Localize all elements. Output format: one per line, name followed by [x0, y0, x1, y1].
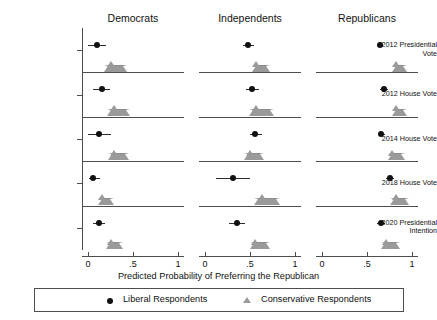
row-label-1: 2012 House Vote [359, 90, 437, 99]
x-axis-tick [250, 252, 251, 256]
y-axis-tick-2 [77, 139, 82, 140]
marker-triangle-conservative [258, 194, 266, 200]
legend-label-liberal: Liberal Respondents [123, 294, 207, 304]
marker-triangle-conservative [251, 239, 259, 245]
marker-circle-liberal [94, 42, 100, 48]
forest-plot-figure: DemocratsIndependentsRepublicans2012 Pre… [0, 0, 437, 320]
marker-circle-liberal [387, 175, 393, 181]
panel-title-democrats: Democrats [68, 12, 198, 24]
panel-title-republicans: Republicans [302, 12, 432, 24]
marker-circle-liberal [96, 220, 102, 226]
marker-circle-liberal [90, 175, 96, 181]
x-tick-label: 1 [285, 259, 305, 269]
row-label-3: 2018 House Vote [359, 179, 437, 188]
marker-triangle-conservative [382, 239, 390, 245]
x-axis-tick [178, 252, 179, 256]
row-separator [316, 206, 418, 207]
marker-triangle-conservative [107, 239, 115, 245]
y-axis-tick-1 [77, 95, 82, 96]
marker-triangle-conservative [392, 194, 400, 200]
x-axis-tick [133, 252, 134, 256]
row-separator [82, 161, 184, 162]
x-axis-line-independents [199, 256, 301, 257]
marker-circle-liberal [249, 86, 255, 92]
marker-triangle-conservative [110, 150, 118, 156]
row-label-2: 2014 House Vote [359, 135, 437, 144]
row-separator [199, 72, 301, 73]
legend: Liberal RespondentsConservative Responde… [34, 288, 404, 312]
y-axis-line [82, 28, 83, 250]
x-axis-tick [322, 252, 323, 256]
marker-triangle-conservative [252, 105, 260, 111]
x-axis-tick [295, 252, 296, 256]
y-axis-tick-0 [77, 50, 82, 51]
marker-triangle-conservative [392, 105, 400, 111]
legend-circle-icon [107, 298, 113, 304]
x-axis-tick [412, 252, 413, 256]
marker-triangle-conservative [110, 105, 118, 111]
marker-circle-liberal [234, 220, 240, 226]
marker-triangle-conservative [98, 194, 106, 200]
marker-triangle-conservative [246, 150, 254, 156]
row-separator [316, 161, 418, 162]
marker-circle-liberal [230, 175, 236, 181]
row-separator [82, 117, 184, 118]
x-tick-label: 0 [78, 259, 98, 269]
marker-circle-liberal [245, 42, 251, 48]
x-axis-tick [367, 252, 368, 256]
marker-circle-liberal [99, 86, 105, 92]
x-axis-line-republicans [316, 256, 418, 257]
marker-triangle-conservative [252, 61, 260, 67]
row-label-0: 2012 Presidential Vote [359, 41, 437, 58]
x-tick-label: 1 [168, 259, 188, 269]
x-axis-tick [88, 252, 89, 256]
row-separator [82, 206, 184, 207]
row-separator [199, 161, 301, 162]
marker-circle-liberal [96, 131, 102, 137]
marker-triangle-conservative [107, 61, 115, 67]
y-axis-tick-4 [77, 228, 82, 229]
x-tick-label: .5 [123, 259, 143, 269]
legend-triangle-icon [243, 297, 251, 303]
x-tick-label: 0 [312, 259, 332, 269]
marker-circle-liberal [377, 42, 383, 48]
panel-title-independents: Independents [185, 12, 315, 24]
marker-triangle-conservative [388, 150, 396, 156]
x-axis-title: Predicted Probability of Preferring the … [0, 271, 437, 281]
y-axis-tick-3 [77, 183, 82, 184]
x-axis-tick [205, 252, 206, 256]
x-tick-label: .5 [357, 259, 377, 269]
marker-circle-liberal [378, 220, 384, 226]
row-separator [316, 117, 418, 118]
marker-circle-liberal [252, 131, 258, 137]
row-separator [82, 72, 184, 73]
x-tick-label: .5 [240, 259, 260, 269]
row-label-4: 2020 Presidential Intention [359, 219, 437, 236]
x-tick-label: 0 [195, 259, 215, 269]
legend-label-conservative: Conservative Respondents [261, 294, 371, 304]
x-tick-label: 1 [402, 259, 422, 269]
row-separator [199, 117, 301, 118]
row-separator [199, 206, 301, 207]
x-axis-line-democrats [82, 256, 184, 257]
marker-triangle-conservative [392, 61, 400, 67]
row-separator [316, 72, 418, 73]
